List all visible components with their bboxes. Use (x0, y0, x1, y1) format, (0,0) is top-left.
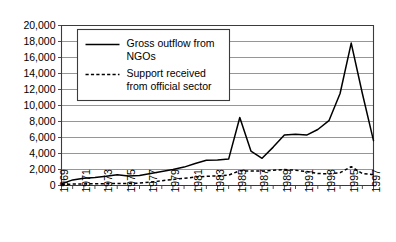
legend-label-line2: from official sector (127, 80, 213, 92)
y-tick-label: 8,000 (29, 115, 55, 127)
legend-label-line2: NGOs (127, 50, 156, 62)
y-tick-label: 2,000 (29, 163, 55, 175)
x-tick-label: 1973 (102, 169, 114, 193)
y-tick-label: 18,000 (23, 35, 55, 47)
x-tick-label: 1985 (236, 169, 248, 193)
y-tick-label: 0 (50, 179, 56, 191)
y-axis-tick-labels: 02,0004,0006,0008,00010,00012,00014,0001… (23, 19, 55, 191)
chart-container: 02,0004,0006,0008,00010,00012,00014,0001… (0, 0, 396, 242)
y-tick-label: 4,000 (29, 147, 55, 159)
x-axis-tick-labels: 1969197119731975197719791981198319851987… (58, 169, 382, 193)
y-tick-label: 16,000 (23, 51, 55, 63)
x-tick-label: 1995 (348, 169, 360, 193)
y-tick-label: 12,000 (23, 83, 55, 95)
x-tick-label: 1981 (192, 169, 204, 193)
chart-legend: Gross outflow fromNGOsSupport receivedfr… (78, 30, 230, 101)
legend-label-line1: Gross outflow from (127, 37, 215, 49)
x-tick-label: 1979 (169, 169, 181, 193)
x-tick-label: 1983 (214, 169, 226, 193)
x-tick-label: 1975 (125, 169, 137, 193)
x-tick-label: 1987 (258, 169, 270, 193)
x-tick-label: 1971 (80, 169, 92, 193)
legend-label-line1: Support received (127, 67, 207, 79)
x-tick-label: 1997 (370, 169, 382, 193)
y-tick-label: 14,000 (23, 67, 55, 79)
y-tick-label: 6,000 (29, 131, 55, 143)
y-tick-label: 20,000 (23, 19, 55, 31)
line-chart: 02,0004,0006,0008,00010,00012,00014,0001… (0, 0, 396, 242)
x-tick-label: 1989 (281, 169, 293, 193)
y-tick-label: 10,000 (23, 99, 55, 111)
